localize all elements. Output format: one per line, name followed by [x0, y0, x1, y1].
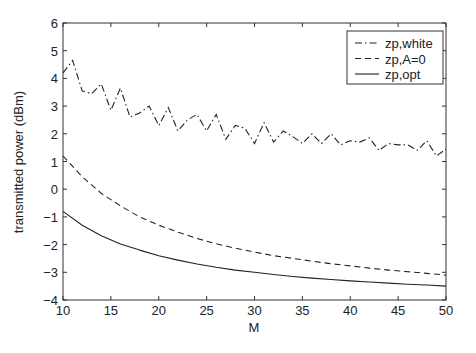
y-tick-label: 2: [51, 127, 58, 142]
y-tick-label: −4: [43, 293, 58, 308]
y-tick-label: 6: [51, 16, 58, 31]
y-tick-label: 0: [51, 182, 58, 197]
y-tick-label: −1: [43, 210, 58, 225]
x-tick-label: 40: [343, 303, 357, 318]
x-axis-label: M: [249, 320, 260, 335]
y-axis-label: transmitted power (dBm): [11, 91, 26, 233]
legend-label: zp,A=0: [385, 52, 426, 67]
legend-label: zp,opt: [385, 67, 421, 82]
y-tick-label: 4: [51, 71, 58, 86]
y-tick-label: 5: [51, 44, 58, 59]
x-tick-label: 30: [247, 303, 261, 318]
y-tick-label: 1: [51, 155, 58, 170]
x-tick-label: 50: [439, 303, 453, 318]
x-tick-label: 25: [199, 303, 213, 318]
x-tick-label: 20: [152, 303, 166, 318]
x-tick-label: 35: [295, 303, 309, 318]
legend-label: zp,white: [385, 36, 433, 51]
legend: zp,whitezp,A=0zp,opt: [347, 31, 443, 84]
y-tick-label: −3: [43, 265, 58, 280]
line-chart: 101520253035404550 −4−3−2−10123456 M tra…: [0, 0, 476, 353]
y-tick-label: 3: [51, 99, 58, 114]
y-tick-label: −2: [43, 238, 58, 253]
x-tick-label: 15: [104, 303, 118, 318]
x-tick-label: 45: [391, 303, 405, 318]
